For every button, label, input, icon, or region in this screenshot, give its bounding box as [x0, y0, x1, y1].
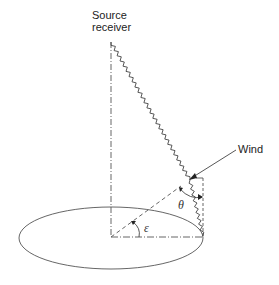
theta-arrowhead-icon: [198, 194, 203, 200]
epsilon-arc: [133, 222, 139, 237]
theta-label: θ: [178, 199, 184, 211]
epsilon-label: ε: [144, 222, 149, 234]
source-label-line2: receiver: [92, 21, 131, 33]
wind-arrow-line: [193, 150, 236, 177]
wind-label: Wind: [238, 143, 263, 155]
source-label-line1: Source: [92, 9, 127, 21]
ground-ellipse: [19, 207, 203, 269]
